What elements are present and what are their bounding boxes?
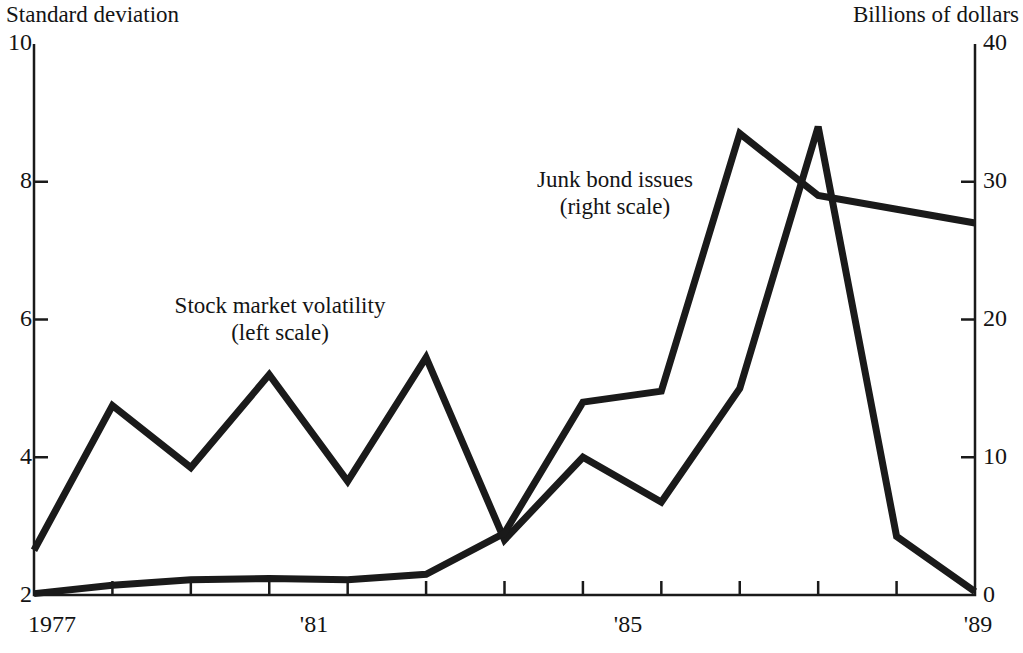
chart-figure: Standard deviation Billions of dollars 1… (0, 0, 1023, 653)
axis-frame (34, 44, 975, 595)
chart-plot-area (0, 0, 1023, 653)
